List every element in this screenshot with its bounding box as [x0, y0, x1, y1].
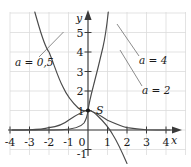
- label-leader-lines: [39, 24, 142, 86]
- y-tick-label-5: 5: [77, 27, 84, 40]
- plot-area: -4 -3 -2 -1 0 1 2 3 4 5 4 3 2 1 -1 y x S…: [0, 0, 191, 167]
- x-tick-label--3: -3: [24, 136, 35, 149]
- x-tick-label-1: 1: [104, 136, 111, 149]
- x-tick-label--2: -2: [44, 136, 55, 149]
- y-tick-label-1: 1: [78, 105, 85, 118]
- x-tick-label-4: 4: [163, 136, 170, 149]
- x-tick-label--4: -4: [5, 136, 16, 149]
- curve-label-a-0point5: a = 0,5: [15, 56, 54, 68]
- exponential-functions-chart: -4 -3 -2 -1 0 1 2 3 4 5 4 3 2 1 -1 y x S…: [0, 0, 191, 167]
- y-axis-arrow: [84, 10, 91, 20]
- x-axis-arrow: [172, 126, 182, 133]
- curve-label-a-2: a = 2: [142, 84, 171, 96]
- y-axis-label: y: [75, 12, 83, 25]
- point-s-label: S: [96, 104, 104, 117]
- x-axis-label: x: [171, 134, 178, 147]
- x-tick-label-3: 3: [143, 136, 150, 149]
- x-tick-label-2: 2: [124, 136, 131, 149]
- leader-a-0point5: [39, 32, 64, 57]
- point-s-dot: [86, 108, 90, 112]
- y-tick-label-4: 4: [77, 46, 84, 59]
- x-tick-label--1: -1: [63, 136, 74, 149]
- y-tick-label-2: 2: [77, 85, 84, 98]
- y-tick-label--1: -1: [77, 148, 88, 161]
- curve-label-a-4: a = 4: [139, 54, 167, 66]
- y-tick-label-3: 3: [77, 66, 84, 79]
